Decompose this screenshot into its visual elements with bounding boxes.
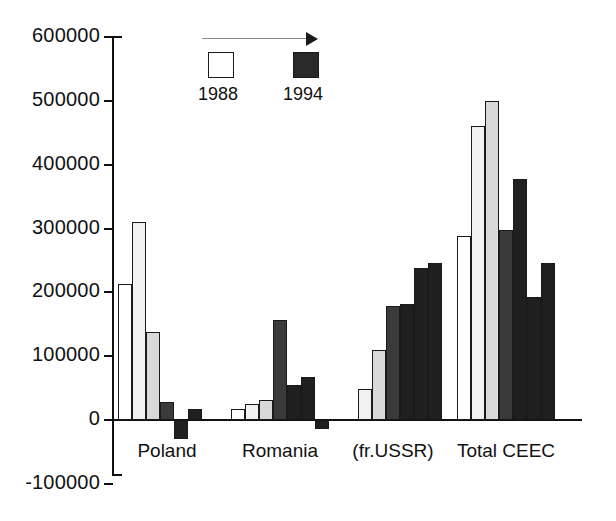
bar (527, 297, 541, 420)
bar (188, 409, 202, 420)
x-axis-label-total-ceec: Total CEEC (437, 440, 575, 462)
bar (118, 284, 132, 420)
bar (485, 101, 499, 420)
bar (132, 222, 146, 420)
bar (160, 402, 174, 420)
bar (259, 400, 273, 420)
legend: 1988 1994 (196, 26, 346, 106)
bar (301, 377, 315, 420)
bar (231, 409, 245, 420)
bar (457, 236, 471, 420)
bar-chart: 6000005000004000003000002000001000000-10… (0, 0, 616, 521)
bar (358, 389, 372, 420)
bar (146, 332, 160, 420)
bar (273, 320, 287, 420)
bar (414, 268, 428, 420)
legend-label-1994: 1994 (283, 84, 323, 105)
bar (315, 420, 329, 429)
bar (386, 306, 400, 420)
bar (174, 420, 188, 439)
bar (372, 350, 386, 420)
bar (513, 179, 527, 420)
bar (471, 126, 485, 420)
legend-label-1988: 1988 (198, 84, 238, 105)
bar (541, 263, 555, 420)
bar (499, 230, 513, 420)
legend-swatch-1994 (293, 52, 319, 78)
bar (400, 304, 414, 420)
arrow-right-icon (306, 32, 318, 46)
legend-arrow-line (202, 38, 310, 39)
bar (245, 404, 259, 420)
bar (287, 385, 301, 420)
bar (428, 263, 442, 420)
legend-swatch-1988 (208, 52, 234, 78)
